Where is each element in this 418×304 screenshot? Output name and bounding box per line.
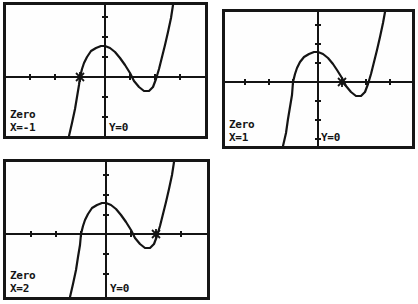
status-operation-label-3: Zero	[10, 270, 35, 281]
calculator-screens-container: Zero X=-1 Y=0	[0, 0, 418, 304]
screen-inner-2: Zero X=1 Y=0	[225, 12, 412, 146]
function-curve	[70, 162, 174, 297]
status-x-value-3: X=2	[10, 283, 29, 294]
status-x-value-2: X=1	[229, 132, 248, 143]
function-curve	[283, 12, 385, 146]
trace-cursor-icon	[151, 229, 161, 239]
status-y-value-2: Y=0	[321, 132, 340, 143]
function-curve	[69, 5, 173, 136]
trace-cursor-icon	[75, 72, 85, 82]
screen-inner-1: Zero X=-1 Y=0	[6, 5, 205, 136]
status-y-value-3: Y=0	[110, 283, 129, 294]
calculator-screen-zero-3[interactable]: Zero X=2 Y=0	[3, 159, 210, 300]
screen-inner-3: Zero X=2 Y=0	[6, 162, 207, 297]
status-operation-label-1: Zero	[10, 109, 35, 120]
status-y-value-1: Y=0	[109, 122, 128, 133]
graph-plot-3	[6, 162, 207, 297]
status-operation-label-2: Zero	[229, 119, 254, 130]
trace-cursor-icon	[337, 77, 347, 87]
status-x-value-1: X=-1	[10, 122, 35, 133]
graph-plot-1	[6, 5, 205, 136]
calculator-screen-zero-2[interactable]: Zero X=1 Y=0	[222, 9, 415, 149]
calculator-screen-zero-1[interactable]: Zero X=-1 Y=0	[3, 2, 208, 139]
